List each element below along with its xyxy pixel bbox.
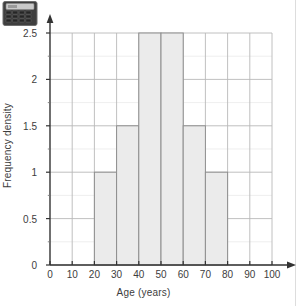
x-tick-label-0: 0 [47,269,53,280]
histogram-bar-70-80 [205,172,227,265]
histogram-bar-30-40 [117,126,139,265]
page-background: 010203040506070809010000.511.522.5 Age (… [0,0,305,306]
x-axis-arrowhead [287,262,296,269]
x-tick-label-50: 50 [155,269,166,280]
x-tick-label-100: 100 [264,269,281,280]
x-tick-label-20: 20 [89,269,100,280]
histogram-bar-20-30 [94,172,116,265]
histogram-bar-60-70 [183,126,205,265]
x-tick-label-30: 30 [111,269,122,280]
histogram-bar-40-50 [139,33,161,265]
y-tick-label-0: 0 [0,260,44,271]
histogram-chart [0,0,305,306]
histogram-bar-50-60 [161,33,183,265]
x-tick-label-40: 40 [133,269,144,280]
x-tick-label-80: 80 [222,269,233,280]
x-tick-label-10: 10 [67,269,78,280]
y-tick-label-2.5: 2.5 [0,28,44,39]
x-tick-label-90: 90 [244,269,255,280]
y-axis-label: Frequency density [2,76,13,216]
x-tick-label-60: 60 [178,269,189,280]
x-axis-label: Age (years) [0,287,287,298]
x-tick-label-70: 70 [200,269,211,280]
y-axis-arrowhead [47,14,54,23]
